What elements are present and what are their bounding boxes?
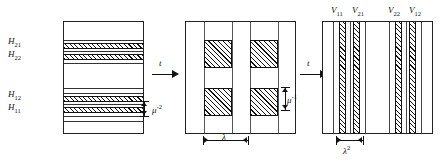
label-v12: V12 bbox=[409, 6, 421, 17]
layer-rule bbox=[64, 104, 143, 105]
dim-arrowhead-left bbox=[243, 137, 247, 143]
dim-arrowhead-down bbox=[141, 111, 147, 115]
dimension-label-mu-minus-2: μ-2 bbox=[152, 104, 162, 115]
stripe-rule bbox=[421, 22, 422, 133]
hatched-square bbox=[204, 88, 232, 116]
stripe-rule bbox=[333, 22, 334, 133]
label-h12: H12 bbox=[8, 90, 21, 101]
label-h22: H22 bbox=[8, 50, 21, 61]
stripe-rule bbox=[365, 22, 366, 133]
dimension-label-lambda: λ bbox=[222, 133, 226, 142]
vertical-stripes-panel bbox=[322, 21, 433, 134]
hatched-band-h11 bbox=[64, 107, 143, 113]
hatched-stripe-v21 bbox=[353, 22, 360, 133]
layer-rule bbox=[64, 51, 143, 52]
layer-rule bbox=[64, 116, 143, 117]
stripe-rule bbox=[389, 22, 390, 133]
label-h11: H11 bbox=[8, 103, 21, 114]
label-h21: H21 bbox=[8, 37, 21, 48]
hatched-square bbox=[204, 40, 232, 68]
hatched-stripe-v11 bbox=[339, 22, 346, 133]
hatched-band-h22 bbox=[64, 54, 143, 60]
dim-arrowhead-right bbox=[204, 137, 208, 143]
grid-guide bbox=[232, 22, 233, 133]
label-v21: V21 bbox=[352, 6, 364, 17]
grid-guide bbox=[250, 22, 251, 133]
grid-guide bbox=[278, 22, 279, 133]
hatched-square bbox=[250, 40, 278, 68]
dim-arrowhead-down bbox=[282, 105, 288, 109]
grid-guide bbox=[204, 22, 205, 133]
dim-arrowhead-up bbox=[141, 102, 147, 106]
hatched-stripe-v22 bbox=[395, 22, 402, 133]
label-v22: V22 bbox=[388, 6, 400, 17]
layer-rule bbox=[64, 121, 143, 122]
dim-arrowhead-up bbox=[282, 88, 288, 92]
arrow-head bbox=[172, 70, 179, 78]
transform-arrow-2-label: t bbox=[307, 58, 310, 68]
arrow-shaft bbox=[300, 74, 322, 75]
dimension-label-mu-minus-1: μ-1 bbox=[287, 94, 297, 105]
label-v11: V11 bbox=[331, 6, 343, 17]
stripe-rule bbox=[350, 22, 351, 133]
hatched-stripe-v12 bbox=[409, 22, 416, 133]
layer-rule bbox=[64, 63, 143, 64]
hatched-band-h12 bbox=[64, 96, 143, 102]
square-grid-panel bbox=[185, 21, 296, 134]
stripe-rule bbox=[406, 22, 407, 133]
dimension-label-lambda-squared: λ2 bbox=[343, 145, 350, 156]
dim-arrowhead-right bbox=[337, 137, 341, 143]
layer-rule bbox=[64, 93, 143, 94]
dim-arrowhead-left bbox=[358, 137, 362, 143]
layer-rule bbox=[64, 88, 143, 89]
transform-arrow-1: t bbox=[152, 68, 180, 82]
hatched-square bbox=[250, 88, 278, 116]
horizontal-layers-panel bbox=[63, 21, 144, 134]
arrow-shaft bbox=[152, 74, 174, 75]
layer-rule bbox=[64, 40, 143, 41]
transform-arrow-1-label: t bbox=[159, 58, 162, 68]
hatched-band-h21 bbox=[64, 43, 143, 49]
